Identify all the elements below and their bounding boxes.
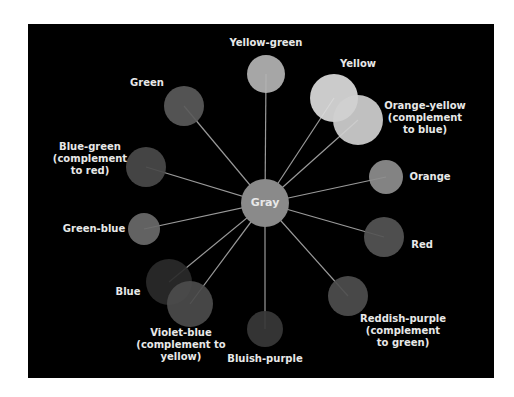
label-red: Red [411, 239, 433, 251]
label-bluish-purple: Bluish-purple [227, 353, 302, 365]
label-yellow: Yellow [340, 58, 376, 70]
label-blue: Blue [116, 286, 141, 298]
node-green-blue [128, 213, 160, 245]
label-yellow-green: Yellow-green [230, 37, 303, 49]
label-blue-green: Blue-green (complement to red) [53, 141, 127, 177]
node-reddish-purple [328, 276, 368, 316]
label-violet-blue: Violet-blue (complement to yellow) [136, 327, 225, 363]
label-orange: Orange [409, 171, 450, 183]
node-violet-blue [167, 281, 213, 327]
label-reddish-purple: Reddish-purple (complement to green) [360, 313, 446, 349]
node-orange-yellow [333, 95, 383, 145]
label-orange-yellow: Orange-yellow (complement to blue) [384, 100, 466, 136]
label-green: Green [130, 77, 164, 89]
node-orange [369, 160, 403, 194]
node-red [364, 217, 404, 257]
label-green-blue: Green-blue [63, 223, 125, 235]
node-green [164, 86, 204, 126]
label-gray: Gray [251, 197, 280, 209]
node-blue-green [126, 147, 166, 187]
node-yellow-green [247, 55, 285, 93]
node-bluish-purple [247, 311, 283, 347]
